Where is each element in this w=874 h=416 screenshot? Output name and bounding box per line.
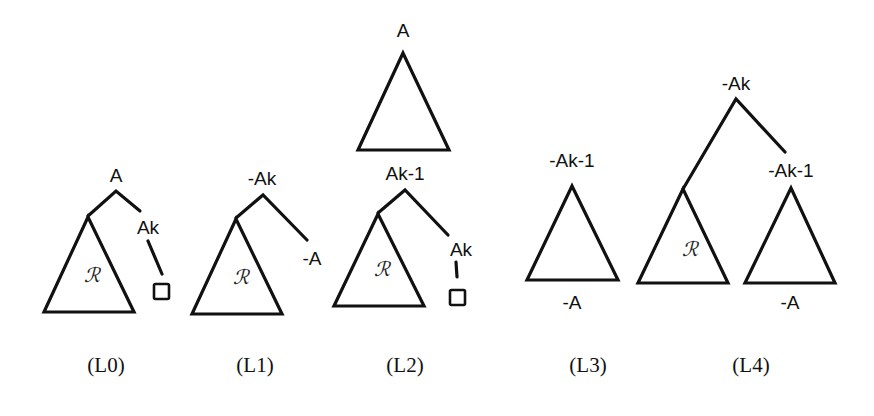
node-label-root: -Ak-1 [549, 150, 594, 171]
subtree-triangle [527, 186, 618, 280]
node-label-child: -Ak-1 [768, 160, 813, 181]
context-triangle [358, 53, 449, 150]
panel-L2: A Ak-1 ℛ Ak [334, 20, 473, 306]
caption-L1: (L1) [236, 353, 273, 377]
branch-edges [236, 195, 307, 240]
tree-rewrite-diagram: A ℛ Ak -Ak ℛ -A A Ak-1 ℛ Ak -Ak-1 -A -Ak [0, 0, 874, 416]
node-label-root: -Ak [722, 73, 751, 94]
caption-L2: (L2) [386, 353, 423, 377]
node-label-top: A [397, 20, 410, 41]
node-label-root: Ak-1 [385, 163, 424, 184]
subtree-label: ℛ [374, 257, 392, 281]
node-label-root: -Ak [248, 168, 277, 189]
subtree-label: ℛ [84, 263, 102, 287]
captions: (L0) (L1) (L2) (L3) (L4) [87, 353, 769, 377]
node-label-child: Ak [137, 217, 160, 238]
caption-L0: (L0) [87, 353, 124, 377]
panel-L1: -Ak ℛ -A [192, 168, 322, 314]
node-label-bottom: -A [563, 292, 582, 313]
leaf-edge [148, 241, 162, 274]
leaf-square-icon [450, 290, 465, 305]
caption-L4: (L4) [732, 353, 769, 377]
panel-L0: A ℛ Ak [44, 165, 169, 312]
branch-edges [378, 190, 448, 235]
subtree-triangle-right [745, 188, 835, 283]
node-label-child: -A [303, 248, 322, 269]
subtree-triangle-left [638, 189, 728, 283]
leaf-square-icon [154, 284, 169, 299]
panel-L3: -Ak-1 -A [527, 150, 618, 313]
branch-edges [88, 191, 140, 216]
leaf-edge [456, 262, 457, 277]
subtree-label: ℛ [233, 265, 251, 289]
panel-L4: -Ak ℛ -Ak-1 -A [638, 73, 835, 313]
node-label-child: Ak [450, 239, 473, 260]
node-label-bottom: -A [781, 292, 800, 313]
subtree-label: ℛ [682, 237, 700, 261]
caption-L3: (L3) [569, 353, 606, 377]
node-label-root: A [110, 165, 123, 186]
